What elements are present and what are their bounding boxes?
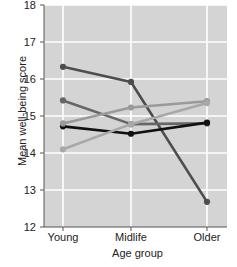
chart-figure: Mean well-being score Age group 18171615… bbox=[0, 0, 237, 267]
plot-area bbox=[0, 0, 237, 267]
series-5-point-3 bbox=[204, 100, 210, 106]
series-1-point-1 bbox=[60, 64, 66, 70]
series-4-point-1 bbox=[60, 120, 66, 126]
series-5-point-2 bbox=[128, 121, 134, 127]
series-3-point-2 bbox=[128, 131, 134, 137]
series-4-point-2 bbox=[128, 104, 134, 110]
series-1-point-3 bbox=[204, 199, 210, 205]
series-5-point-1 bbox=[60, 146, 66, 152]
series-2-point-1 bbox=[60, 97, 66, 103]
series-3-point-3 bbox=[204, 120, 210, 126]
series-1-point-2 bbox=[128, 79, 134, 85]
